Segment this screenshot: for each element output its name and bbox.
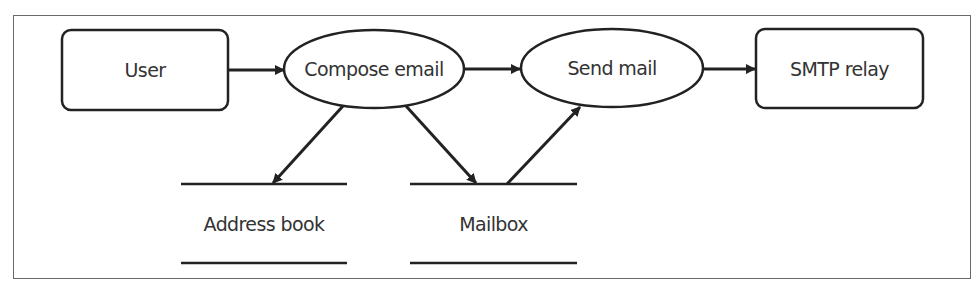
- send-mail-node-shape: [521, 29, 703, 107]
- address-book-store-shape: [181, 184, 347, 263]
- compose-email-node-shape: [284, 30, 464, 108]
- smtp-relay-node-shape: [756, 29, 923, 108]
- arrow-compose-to-address-book: [273, 106, 343, 183]
- user-node-shape: [62, 30, 228, 110]
- data-flow-diagram: User Compose email Send mail SMTP relay …: [0, 0, 978, 287]
- arrow-compose-to-mailbox: [406, 106, 476, 183]
- mailbox-store-shape: [410, 184, 577, 263]
- arrow-mailbox-to-send: [507, 107, 580, 184]
- diagram-shapes: [0, 0, 978, 287]
